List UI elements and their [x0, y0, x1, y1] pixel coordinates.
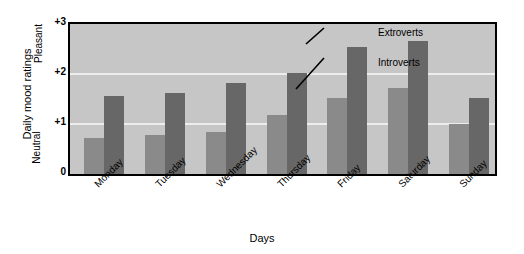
bar-group [327, 24, 367, 174]
mood-ratings-bar-chart: Daily mood ratings Pleasant Neutral 0+1+… [0, 0, 524, 254]
y-tick-label: 0 [40, 167, 66, 177]
y-tick-label: +2 [40, 67, 66, 77]
bar-group [388, 24, 428, 174]
bar-group [206, 24, 246, 174]
bar-introverts-monday [84, 138, 104, 174]
plot-inner: Extroverts Introverts [70, 24, 495, 174]
annotation-extroverts: Extroverts [378, 27, 423, 38]
bar-group [449, 24, 489, 174]
bar-introverts-thursday [267, 115, 287, 174]
plot-area: Extroverts Introverts [68, 22, 497, 176]
bar-extroverts-friday [347, 47, 367, 174]
y-tick-label: +1 [40, 117, 66, 127]
bar-introverts-sunday [449, 124, 469, 174]
annotation-introverts: Introverts [378, 57, 420, 68]
bar-introverts-wednesday [206, 132, 226, 174]
y-axis-tick-labels: 0+1+2+3 [38, 0, 66, 254]
bar-group [267, 24, 307, 174]
bar-group [84, 24, 124, 174]
bar-introverts-saturday [388, 88, 408, 174]
bar-group [145, 24, 185, 174]
bar-introverts-tuesday [145, 135, 165, 174]
y-tick-label: +3 [40, 17, 66, 27]
bar-introverts-friday [327, 98, 347, 174]
x-axis-title: Days [0, 232, 524, 244]
